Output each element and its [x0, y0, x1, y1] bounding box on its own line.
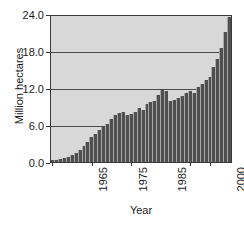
y-tick-mark [46, 126, 50, 127]
y-tick-label: 24.0 [18, 9, 44, 21]
x-tick-label: 1975 [137, 167, 149, 207]
x-tick-label: 1985 [176, 167, 188, 207]
plot-area [50, 15, 232, 163]
bar [227, 17, 231, 162]
x-tick-label: 1965 [97, 167, 109, 207]
x-axis-title: Year [50, 203, 232, 217]
y-axis-tick-labels: 0.06.012.018.024.0 [12, 0, 44, 180]
x-tick-mark [52, 163, 53, 166]
x-tick-mark [92, 163, 93, 166]
y-tick-mark [46, 52, 50, 53]
y-tick-label: 18.0 [18, 46, 44, 58]
y-tick-label: 0.0 [18, 157, 44, 169]
bar-series [51, 16, 231, 162]
bar-chart-figure: Million hectares 0.06.012.018.024.0 1965… [0, 0, 244, 226]
y-tick-mark [46, 163, 50, 164]
x-tick-mark [210, 163, 211, 166]
x-tick-label: 2000 [235, 167, 244, 207]
x-tick-mark [131, 163, 132, 166]
y-tick-mark [46, 15, 50, 16]
y-tick-label: 12.0 [18, 83, 44, 95]
y-tick-label: 6.0 [18, 120, 44, 132]
x-tick-mark [190, 163, 191, 166]
y-tick-mark [46, 89, 50, 90]
